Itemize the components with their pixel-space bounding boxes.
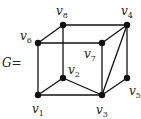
vertex-v6 xyxy=(35,40,41,46)
vertex-v2 xyxy=(60,75,66,81)
graph-diagram: G= v1v2v3v4v5v6v7v8 xyxy=(0,0,141,119)
edge-v1-v2 xyxy=(38,78,63,95)
edge-v6-v8 xyxy=(38,25,63,43)
vertex-v1 xyxy=(35,92,41,98)
vertex-v7 xyxy=(99,40,105,46)
edge-v2-v3 xyxy=(63,78,102,95)
edge-v4-v3 xyxy=(102,25,127,95)
vertex-label-v1: v1 xyxy=(32,102,44,118)
edges xyxy=(38,25,127,95)
vertex-label-v4: v4 xyxy=(121,4,133,20)
vertex-v5 xyxy=(124,75,130,81)
vertex-label-v6: v6 xyxy=(20,29,32,45)
vertex-label-v3: v3 xyxy=(96,103,108,119)
vertex-label-v5: v5 xyxy=(129,84,141,100)
vertex-label-v2: v2 xyxy=(68,63,80,79)
graph-name-label: G= xyxy=(2,56,22,70)
edge-v5-v3 xyxy=(102,78,127,95)
vertex-label-v8: v8 xyxy=(56,4,68,20)
vertex-v4 xyxy=(124,22,130,28)
vertex-v8 xyxy=(60,22,66,28)
vertex-label-v7: v7 xyxy=(84,47,96,63)
vertex-v3 xyxy=(99,92,105,98)
